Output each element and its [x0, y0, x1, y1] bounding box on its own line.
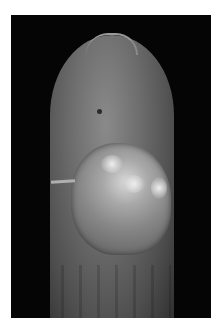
skin-creases	[61, 265, 171, 318]
clinical-photo	[11, 15, 211, 318]
lesion-nodule	[101, 155, 123, 173]
lesion-nodule	[123, 175, 145, 193]
nail-edge	[86, 33, 138, 55]
skin-spot	[97, 109, 102, 114]
lesion-nodule	[151, 177, 167, 199]
